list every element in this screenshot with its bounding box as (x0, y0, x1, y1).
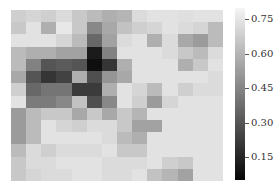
heatmap-cell (41, 22, 56, 34)
heatmap-cell (132, 22, 147, 34)
heatmap-cell (162, 10, 177, 22)
heatmap-cell (147, 96, 162, 108)
heatmap-grid (11, 10, 223, 181)
heatmap-cell (132, 132, 147, 144)
heatmap-cell (102, 83, 117, 95)
heatmap-cell (162, 83, 177, 95)
heatmap-cell (132, 169, 147, 181)
heatmap-cell (11, 83, 26, 95)
heatmap-cell (208, 132, 223, 144)
heatmap-cell (147, 157, 162, 169)
heatmap-cell (72, 83, 87, 95)
heatmap-cell (11, 96, 26, 108)
heatmap-cell (102, 10, 117, 22)
heatmap-cell (87, 47, 102, 59)
heatmap-cell (72, 59, 87, 71)
heatmap-cell (102, 157, 117, 169)
heatmap-cell (117, 132, 132, 144)
heatmap-cell (56, 10, 71, 22)
heatmap-cell (26, 10, 41, 22)
heatmap-cell (56, 108, 71, 120)
heatmap-cell (117, 83, 132, 95)
heatmap-cell (208, 47, 223, 59)
heatmap-cell (87, 10, 102, 22)
heatmap-cell (132, 157, 147, 169)
heatmap-cell (87, 169, 102, 181)
heatmap-cell (117, 108, 132, 120)
heatmap-cell (72, 10, 87, 22)
heatmap-cell (87, 96, 102, 108)
heatmap-cell (162, 59, 177, 71)
heatmap-cell (72, 157, 87, 169)
heatmap-cell (87, 157, 102, 169)
heatmap-cell (147, 10, 162, 22)
heatmap-cell (147, 132, 162, 144)
heatmap-cell (11, 22, 26, 34)
heatmap-cell (132, 71, 147, 83)
heatmap-cell (56, 132, 71, 144)
heatmap-cell (117, 34, 132, 46)
heatmap-cell (193, 96, 208, 108)
heatmap-cell (208, 108, 223, 120)
heatmap-cell (132, 34, 147, 46)
heatmap-cell (26, 71, 41, 83)
heatmap-cell (26, 22, 41, 34)
heatmap-cell (178, 169, 193, 181)
heatmap-cell (26, 96, 41, 108)
heatmap-cell (208, 10, 223, 22)
heatmap-cell (208, 144, 223, 156)
heatmap-cell (72, 108, 87, 120)
heatmap-cell (11, 10, 26, 22)
colorbar-tick-label: 0.75 (251, 14, 273, 24)
heatmap-cell (208, 169, 223, 181)
heatmap-cell (102, 22, 117, 34)
heatmap-cell (26, 132, 41, 144)
heatmap-cell (162, 34, 177, 46)
heatmap-cell (178, 120, 193, 132)
heatmap-cell (162, 47, 177, 59)
heatmap-cell (208, 157, 223, 169)
heatmap-cell (56, 83, 71, 95)
heatmap-cell (162, 132, 177, 144)
heatmap-cell (193, 157, 208, 169)
heatmap-cell (132, 144, 147, 156)
heatmap-cell (162, 71, 177, 83)
heatmap-cell (178, 71, 193, 83)
heatmap-cell (41, 120, 56, 132)
colorbar-tick-mark (245, 54, 249, 55)
heatmap-cell (117, 71, 132, 83)
heatmap-cell (147, 83, 162, 95)
heatmap-cell (11, 169, 26, 181)
heatmap-cell (193, 34, 208, 46)
heatmap-cell (147, 47, 162, 59)
heatmap-cell (72, 132, 87, 144)
heatmap-cell (117, 169, 132, 181)
colorbar-tick-mark (245, 88, 249, 89)
heatmap-cell (87, 144, 102, 156)
heatmap-cell (87, 132, 102, 144)
heatmap-cell (11, 157, 26, 169)
heatmap-cell (56, 144, 71, 156)
heatmap-cell (26, 120, 41, 132)
heatmap-cell (193, 83, 208, 95)
heatmap-cell (178, 132, 193, 144)
heatmap-cell (117, 10, 132, 22)
heatmap-cell (162, 108, 177, 120)
heatmap-cell (208, 83, 223, 95)
heatmap-cell (162, 22, 177, 34)
heatmap-cell (162, 157, 177, 169)
heatmap-cell (26, 144, 41, 156)
heatmap-cell (208, 120, 223, 132)
heatmap-cell (178, 96, 193, 108)
heatmap-cell (193, 120, 208, 132)
heatmap-cell (132, 59, 147, 71)
heatmap-cell (87, 59, 102, 71)
heatmap-cell (11, 47, 26, 59)
heatmap-cell (208, 71, 223, 83)
heatmap-cell (178, 108, 193, 120)
heatmap-cell (102, 132, 117, 144)
colorbar-tick-label: 0.60 (251, 49, 273, 59)
heatmap-cell (162, 96, 177, 108)
heatmap-cell (193, 169, 208, 181)
heatmap-cell (147, 169, 162, 181)
